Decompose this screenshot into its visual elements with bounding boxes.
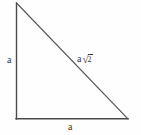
radicand-value: 2: [88, 54, 93, 64]
horizontal-leg-label: a: [68, 122, 72, 132]
hypotenuse-line: [17, 3, 129, 119]
hypotenuse-label: a √ 2: [77, 54, 93, 65]
hypotenuse-coefficient: a: [77, 54, 81, 64]
triangle-drawing: [0, 0, 141, 135]
triangle-figure: a a a √ 2: [0, 0, 141, 135]
vertical-leg-label: a: [7, 55, 11, 65]
square-root-icon: √ 2: [82, 54, 92, 65]
